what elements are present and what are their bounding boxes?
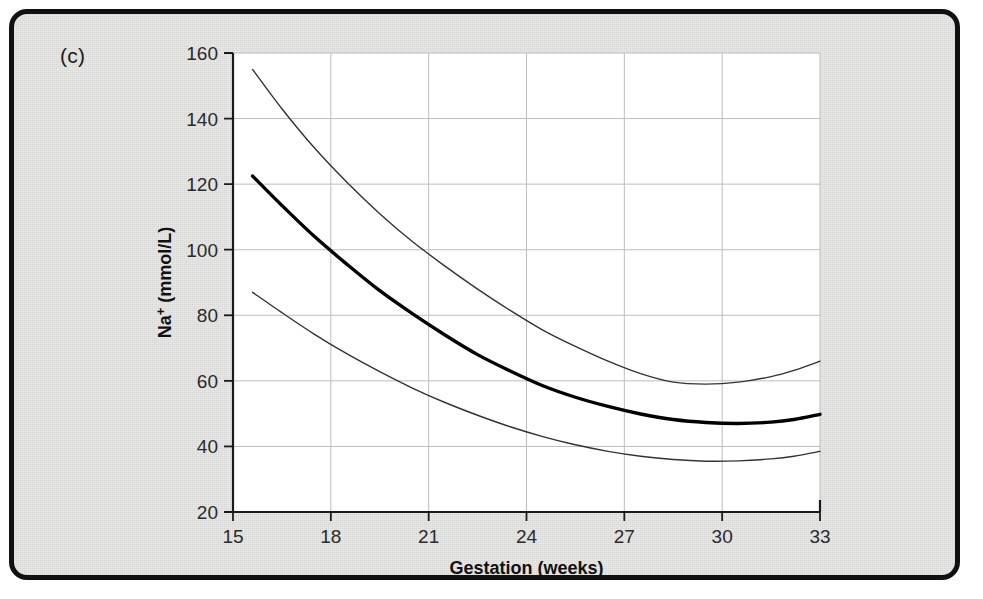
line-chart: 2040608010012014016015182124273033 Gesta…: [14, 14, 960, 580]
y-tick-label: 100: [186, 240, 218, 261]
y-tick-label: 20: [197, 502, 218, 523]
x-tick-label: 27: [614, 526, 635, 547]
x-tick-label: 30: [712, 526, 733, 547]
x-tick-label: 33: [809, 526, 830, 547]
y-tick-label: 40: [197, 436, 218, 457]
y-tick-label: 80: [197, 305, 218, 326]
x-axis-title: Gestation (weeks): [449, 558, 603, 578]
figure-root: (c) 2040608010012014016015182124273033 G…: [0, 0, 983, 599]
y-tick-label: 60: [197, 371, 218, 392]
y-tick-label: 140: [186, 109, 218, 130]
y-axis-title: Na+ (mmol/L): [153, 227, 175, 339]
x-tick-label: 24: [516, 526, 538, 547]
x-tick-label: 21: [418, 526, 439, 547]
y-tick-label: 160: [186, 43, 218, 64]
y-tick-label: 120: [186, 174, 218, 195]
figure-panel: (c) 2040608010012014016015182124273033 G…: [9, 9, 960, 580]
x-tick-label: 15: [222, 526, 243, 547]
x-tick-label: 18: [320, 526, 341, 547]
